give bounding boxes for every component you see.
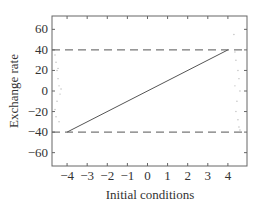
scatter-point xyxy=(56,70,57,71)
y-tick-label: −40 xyxy=(28,124,48,139)
scatter-point xyxy=(58,121,59,122)
scatter-point xyxy=(58,85,59,86)
x-tick-label: 2 xyxy=(184,168,191,183)
y-axis-label: Exchange rate xyxy=(6,54,21,128)
scatter-point xyxy=(238,78,239,79)
y-tick-label: 20 xyxy=(35,62,48,77)
x-tick-label: −2 xyxy=(100,168,114,183)
x-tick-label: −1 xyxy=(120,168,134,183)
x-tick-label: 4 xyxy=(225,168,232,183)
scatter-point xyxy=(236,101,237,102)
scatter-point xyxy=(59,93,60,94)
x-tick-label: 1 xyxy=(164,168,171,183)
scatter-point xyxy=(239,90,240,91)
scatter-point xyxy=(235,59,236,60)
y-tick-label: 40 xyxy=(35,42,48,57)
scatter-point xyxy=(234,85,235,86)
y-axis-ticks: 6040200−20−40−60 xyxy=(28,21,247,159)
scatter-point xyxy=(239,129,240,130)
scatter-point xyxy=(55,116,56,117)
plot-area xyxy=(52,34,247,132)
scatter-point xyxy=(57,68,58,69)
scatter-point xyxy=(235,111,236,112)
scatter-point xyxy=(234,51,235,52)
x-tick-label: −4 xyxy=(60,168,74,183)
y-tick-label: −20 xyxy=(28,104,48,119)
scatter-point xyxy=(233,34,234,35)
x-axis-ticks: −4−3−2−101234 xyxy=(60,16,231,183)
scatter-point xyxy=(54,109,55,110)
scatter-point xyxy=(56,101,57,102)
y-tick-label: 0 xyxy=(42,83,49,98)
x-tick-label: 3 xyxy=(205,168,212,183)
scatter-point xyxy=(237,119,238,120)
x-tick-label: −3 xyxy=(80,168,94,183)
y-tick-label: 60 xyxy=(35,21,48,36)
scatter-point xyxy=(60,88,61,89)
y-tick-label: −60 xyxy=(28,145,48,160)
x-tick-label: 0 xyxy=(144,168,151,183)
scatter-point xyxy=(238,126,239,127)
scatter-point xyxy=(237,70,238,71)
scatter-point xyxy=(57,78,58,79)
scatter-point xyxy=(54,54,55,55)
chart: −4−3−2−101234 6040200−20−40−60 Initial c… xyxy=(0,0,258,206)
scatter-point xyxy=(55,62,56,63)
x-axis-label: Initial conditions xyxy=(106,187,194,202)
solution-line xyxy=(67,50,228,132)
plot-frame xyxy=(52,16,247,166)
